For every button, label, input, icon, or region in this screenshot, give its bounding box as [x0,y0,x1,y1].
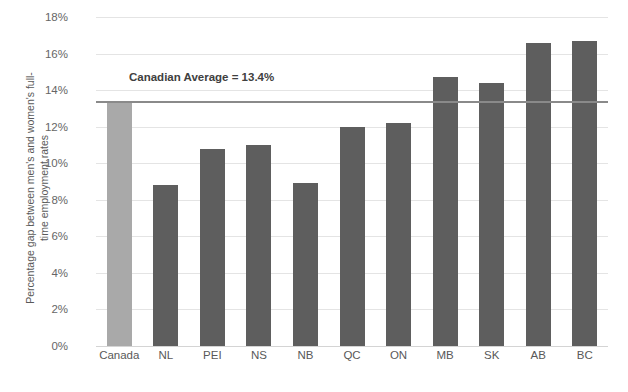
bar-qc[interactable] [340,127,365,346]
bar-chart: Percentage gap between men's and women's… [0,0,628,392]
x-axis-tick-label-on: ON [375,349,422,361]
bar-nl[interactable] [153,185,178,346]
y-axis-tick-label: 2% [22,303,68,315]
x-axis-tick-label-sk: SK [468,349,515,361]
average-reference-line [96,101,608,103]
y-axis-title-line-2: time employment rates [37,135,51,241]
x-axis-tick-label-qc: QC [329,349,376,361]
bar-slot [329,17,376,346]
bar-nb[interactable] [293,183,318,346]
bar-canada[interactable] [107,101,132,346]
bar-slot [189,17,236,346]
y-axis-tick-label: 16% [22,48,68,60]
bar-slot [96,17,143,346]
y-axis-tick-label: 8% [22,194,68,206]
y-axis-tick-label: 0% [22,340,68,352]
x-axis-tick-label-mb: MB [422,349,469,361]
y-axis-tick-label: 12% [22,121,68,133]
x-axis-tick-label-bc: BC [561,349,608,361]
bars-container [96,17,608,346]
bar-ns[interactable] [246,145,271,346]
x-axis-tick-label-nl: NL [143,349,190,361]
x-axis-tick-label-ab: AB [515,349,562,361]
bar-mb[interactable] [433,77,458,346]
bar-on[interactable] [386,123,411,346]
y-axis-tick-label: 10% [22,157,68,169]
bar-slot [282,17,329,346]
bar-slot [561,17,608,346]
bar-sk[interactable] [479,83,504,346]
bar-slot [236,17,283,346]
plot-area: 0%2%4%6%8%10%12%14%16%18% Canadian Avera… [96,17,608,346]
x-axis-tick-label-nb: NB [282,349,329,361]
x-axis-tick-labels: CanadaNLPEINSNBQCONMBSKABBC [96,349,608,361]
bar-slot [515,17,562,346]
bar-slot [143,17,190,346]
gridline [96,346,608,347]
bar-slot [422,17,469,346]
y-axis-tick-label: 6% [22,230,68,242]
y-axis-tick-label: 18% [22,11,68,23]
bar-ab[interactable] [526,43,551,346]
y-axis-tick-label: 4% [22,267,68,279]
y-axis-tick-label: 14% [22,84,68,96]
bar-slot [468,17,515,346]
bar-bc[interactable] [572,41,597,346]
x-axis-tick-label-ns: NS [236,349,283,361]
bar-pei[interactable] [200,149,225,346]
x-axis-tick-label-pei: PEI [189,349,236,361]
bar-slot [375,17,422,346]
average-annotation-label: Canadian Average = 13.4% [129,71,274,83]
x-axis-tick-label-canada: Canada [96,349,143,361]
